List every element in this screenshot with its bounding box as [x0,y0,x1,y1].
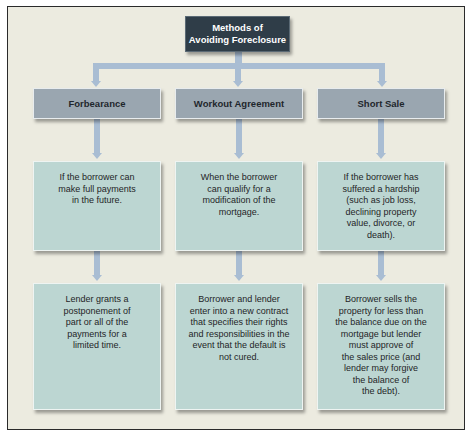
arrow-down-icon [376,275,386,281]
arrow-down-icon [376,153,386,159]
arrow-down-icon [92,275,102,281]
header-forbearance: Forbearance [33,88,161,119]
outcome-short-sale: Borrower sells the property for less tha… [317,283,445,410]
connector-col1-down [93,63,99,82]
arrow-down-icon [91,81,101,87]
connector-col1-mid [94,119,100,153]
connector-col2-mid [236,119,242,153]
outcome-workout-agreement: Borrower and lender enter into a new con… [175,283,303,410]
title-line-1: Methods of [186,22,289,34]
header-workout-agreement: Workout Agreement [175,88,303,119]
condition-workout-agreement: When the borrower can qualify for a modi… [175,161,303,251]
outcome-forbearance: Lender grants a postponement of part or … [33,283,161,410]
diagram-title: Methods of Avoiding Foreclosure [185,16,290,52]
connector-col2-bot [236,251,242,275]
connector-col3-mid [378,119,384,153]
arrow-down-icon [92,153,102,159]
condition-forbearance: If the borrower can make full payments i… [33,161,161,251]
connector-col3-down [379,63,385,82]
header-short-sale: Short Sale [317,88,445,119]
arrow-down-icon [377,81,387,87]
connector-col1-bot [94,251,100,275]
connector-col2-down [235,63,241,82]
condition-short-sale: If the borrower has suffered a hardship … [317,161,445,251]
title-line-2: Avoiding Foreclosure [186,34,289,46]
connector-col3-bot [378,251,384,275]
arrow-down-icon [234,153,244,159]
arrow-down-icon [233,81,243,87]
arrow-down-icon [234,275,244,281]
